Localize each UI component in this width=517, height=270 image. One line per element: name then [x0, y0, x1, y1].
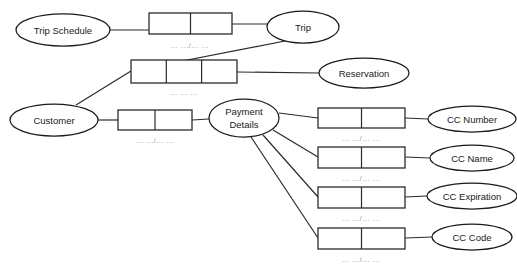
entity-cc-number[interactable]: CC Number	[428, 106, 516, 132]
connector-payment-details-to-cc-number-relationship	[279, 113, 318, 118]
connector-cc-name-relationship-to-entity	[405, 157, 430, 158]
entity-label: CC Name	[451, 153, 493, 164]
er-diagram-root: ... .../... ... ... ... ... ... .../... …	[0, 0, 517, 270]
cardinality-label: ... ... ...	[170, 89, 198, 96]
entity-label-line-1: Payment	[225, 106, 263, 117]
entity-trip-schedule[interactable]: Trip Schedule	[16, 14, 110, 46]
entity-cc-expiration[interactable]: CC Expiration	[427, 183, 517, 209]
entity-label: Customer	[33, 115, 74, 126]
connector-payment-relationship-to-payment-details	[192, 119, 209, 120]
entity-label: CC Expiration	[443, 191, 502, 202]
entity-label: Trip	[295, 22, 311, 33]
entity-customer[interactable]: Customer	[10, 104, 98, 136]
relationship-box-cc-name[interactable]: ... .../... ...	[318, 147, 405, 182]
connector-customer-trip-relationship-to-reservation	[237, 72, 319, 73]
entity-cc-name[interactable]: CC Name	[430, 145, 514, 171]
connector-payment-details-to-cc-name-relationship	[273, 130, 318, 157]
relationship-box-cc-number[interactable]: ... .../... ...	[318, 108, 405, 142]
relationship-box-cc-code[interactable]: ... .../... ...	[318, 228, 405, 263]
connector-cc-expiration-relationship-to-entity	[405, 196, 427, 197]
entity-cc-code[interactable]: CC Code	[432, 224, 512, 250]
cardinality-label: ... .../... ...	[342, 215, 380, 222]
cardinality-label: ... .../... ...	[342, 135, 380, 142]
entity-label-line-2: Details	[229, 119, 258, 130]
cardinality-label: ... .../... ...	[342, 175, 380, 182]
entity-label: Reservation	[339, 68, 390, 79]
entity-label: CC Code	[452, 232, 491, 243]
cardinality-label: ... .../... ...	[342, 256, 380, 263]
entity-trip[interactable]: Trip	[267, 11, 339, 43]
connector-payment-details-to-cc-expiration-relationship	[263, 135, 318, 197]
relationship-box-rect[interactable]	[131, 60, 237, 83]
entity-payment-details[interactable]: Payment Details	[209, 99, 279, 137]
cardinality-label: ... .../... ...	[171, 42, 209, 49]
entity-label: Trip Schedule	[34, 25, 92, 36]
connector-cc-code-relationship-to-entity	[405, 237, 432, 238]
connector-cc-number-relationship-to-entity	[405, 118, 428, 119]
relationship-box-customer-payment[interactable]: ... .../... ...	[118, 110, 192, 144]
relationship-box-customer-trip[interactable]: ... ... ...	[131, 60, 237, 96]
er-diagram-canvas: ... .../... ... ... ... ... ... .../... …	[0, 0, 517, 270]
connector-payment-details-to-cc-code-relationship	[251, 137, 318, 238]
connector-customer-to-customer-trip-relationship	[76, 71, 131, 105]
relationship-box-cc-expiration[interactable]: ... .../... ...	[318, 187, 405, 222]
cardinality-label: ... .../... ...	[136, 137, 174, 144]
relationship-box-trip-schedule-trip[interactable]: ... .../... ...	[149, 13, 232, 49]
entity-reservation[interactable]: Reservation	[319, 58, 409, 88]
entity-label: CC Number	[447, 114, 497, 125]
